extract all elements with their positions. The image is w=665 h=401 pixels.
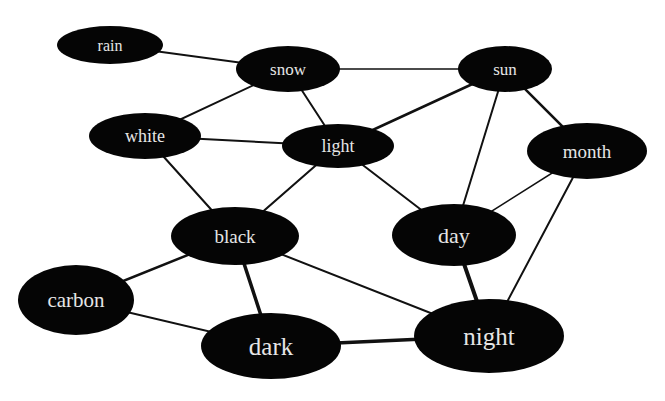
node-dark: dark (201, 313, 341, 379)
node-sun: sun (458, 46, 552, 92)
node-label-dark: dark (249, 333, 294, 360)
node-month: month (527, 123, 647, 179)
node-black: black (171, 207, 299, 265)
node-label-night: night (463, 323, 514, 350)
node-label-carbon: carbon (47, 288, 105, 312)
node-label-white: white (125, 126, 165, 146)
node-label-rain: rain (98, 37, 123, 54)
node-night: night (414, 299, 564, 373)
nodes-layer: rain snow sun white light month black da… (18, 26, 647, 379)
node-rain: rain (57, 26, 163, 64)
node-light: light (282, 124, 394, 168)
node-label-snow: snow (270, 60, 307, 79)
node-label-light: light (321, 136, 354, 156)
node-white: white (89, 113, 201, 159)
node-label-month: month (563, 141, 612, 162)
node-label-sun: sun (493, 60, 517, 79)
node-label-day: day (438, 223, 470, 248)
node-snow: snow (236, 46, 340, 92)
node-day: day (392, 204, 516, 266)
node-carbon: carbon (18, 265, 134, 335)
node-label-black: black (214, 226, 256, 247)
word-network-diagram: rain snow sun white light month black da… (0, 0, 665, 401)
